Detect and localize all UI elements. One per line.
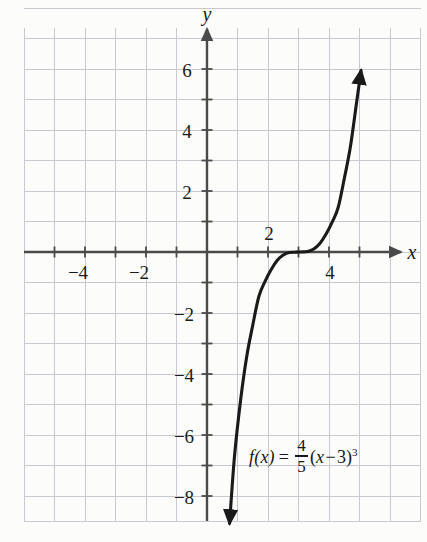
equation-equals-sign: = bbox=[279, 448, 289, 466]
y-tick-label-neg8: −8 bbox=[174, 488, 194, 507]
y-tick-label-neg2: −2 bbox=[174, 305, 194, 324]
graph-figure: x y −4 −2 2 4 6 4 2 −2 −4 −6 −8 f(x) = 4… bbox=[0, 0, 427, 542]
y-tick-label-4: 4 bbox=[182, 122, 192, 141]
x-tick-label-neg2: −2 bbox=[129, 263, 149, 282]
y-tick-label-2: 2 bbox=[182, 183, 192, 202]
x-tick-label-4: 4 bbox=[325, 263, 335, 282]
x-tick-label-2: 2 bbox=[264, 224, 274, 243]
y-tick-label-neg6: −6 bbox=[174, 427, 194, 446]
paper-background bbox=[0, 0, 427, 542]
y-tick-label-6: 6 bbox=[182, 61, 192, 80]
equation-function-name: f(x) bbox=[249, 448, 275, 466]
x-axis-label: x bbox=[408, 242, 417, 262]
plot-canvas bbox=[0, 0, 427, 542]
equation-variable: x bbox=[316, 448, 324, 466]
equation-exponent: 3 bbox=[352, 446, 358, 457]
equation-shift-value: 3 bbox=[337, 448, 346, 466]
fraction-numerator: 4 bbox=[297, 437, 306, 455]
function-equation-annotation: f(x) = 4 5 ( x − 3 ) 3 bbox=[249, 438, 358, 476]
equation-minus-sign: − bbox=[324, 448, 337, 466]
x-tick-label-neg4: −4 bbox=[68, 263, 88, 282]
equation-fraction: 4 5 bbox=[295, 437, 308, 475]
y-tick-label-neg4: −4 bbox=[174, 366, 194, 385]
y-axis-label: y bbox=[203, 4, 212, 24]
fraction-denominator: 5 bbox=[297, 457, 306, 475]
